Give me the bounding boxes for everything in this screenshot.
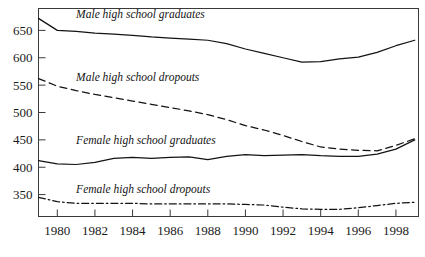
series-label-2: Female high school graduates: [75, 134, 216, 147]
y-tick-label: 650: [13, 23, 33, 38]
x-tick-label: 1980: [44, 223, 70, 238]
x-tick-label: 1994: [308, 223, 335, 238]
line-chart: 350400450500550600650 198019821984198619…: [0, 0, 425, 257]
x-tick-label: 1996: [345, 223, 372, 238]
x-tick-label: 1992: [270, 223, 296, 238]
x-tick-label: 1986: [157, 223, 184, 238]
y-tick-label: 400: [13, 160, 33, 175]
y-tick-label: 450: [13, 132, 33, 147]
series-label-3: Female high school dropouts: [75, 183, 211, 196]
chart-background: [0, 0, 425, 257]
x-tick-label: 1990: [232, 223, 258, 238]
x-tick-label: 1988: [195, 223, 221, 238]
x-tick-label: 1982: [82, 223, 108, 238]
x-tick-label: 1998: [383, 223, 409, 238]
y-tick-label: 500: [13, 105, 33, 120]
y-tick-label: 600: [13, 50, 33, 65]
chart-figure: 350400450500550600650 198019821984198619…: [0, 0, 425, 257]
series-label-0: Male high school graduates: [75, 8, 205, 21]
series-label-1: Male high school dropouts: [75, 71, 200, 84]
x-tick-label: 1984: [120, 223, 147, 238]
y-tick-label: 550: [13, 78, 33, 93]
y-tick-label: 350: [13, 187, 33, 202]
